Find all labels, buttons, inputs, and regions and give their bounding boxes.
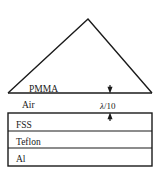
lambda-divider: /10 (104, 101, 116, 111)
gap-dimension-label: λ/10 (99, 101, 116, 111)
layer-label-teflon: Teflon (16, 137, 41, 147)
layered-structure-diagram: PMMA Air λ/10 FSS Teflon Al (0, 0, 162, 173)
air-gap-label: Air (22, 100, 36, 110)
pmma-prism (8, 19, 152, 93)
figure-canvas: PMMA Air λ/10 FSS Teflon Al (0, 0, 162, 173)
pmma-triangle-outline (8, 19, 152, 93)
layer-label-al: Al (16, 154, 26, 164)
pmma-label: PMMA (29, 84, 58, 94)
layer-label-fss: FSS (16, 120, 32, 130)
gap-dimension-annotation: λ/10 (99, 85, 116, 121)
